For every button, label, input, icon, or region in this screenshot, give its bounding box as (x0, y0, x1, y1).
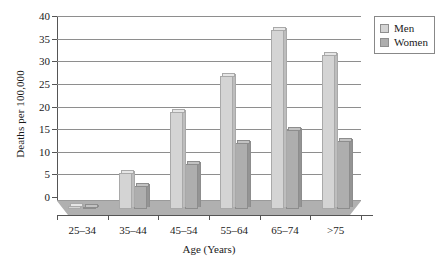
bar-face (83, 207, 96, 209)
x-axis-tick-label: 45–54 (170, 224, 198, 236)
x-axis-tick-label: 35–44 (119, 224, 147, 236)
bar-women-35–44 (134, 186, 147, 209)
bar-face (337, 141, 350, 209)
bar-side (233, 74, 236, 207)
y-axis-tick-label: 15 (39, 123, 50, 135)
x-axis-tick (158, 215, 159, 220)
legend-item-women: Women (380, 35, 428, 49)
bar-face (235, 143, 248, 209)
x-axis-line (57, 215, 373, 216)
bar-men-35–44 (119, 173, 132, 209)
y-axis-tick-label: 0 (45, 191, 51, 203)
bar-men-45–54 (170, 112, 183, 209)
y-axis-tick-label: 10 (39, 146, 50, 158)
x-axis-tick (361, 215, 362, 220)
x-axis-tick (108, 215, 109, 220)
bar-women->75 (337, 141, 350, 209)
bar-side (284, 28, 287, 207)
x-axis-tick (209, 215, 210, 220)
bar-face (68, 206, 81, 209)
y-axis-tick-label: 30 (39, 55, 50, 67)
y-axis-tick-label: 25 (39, 78, 50, 90)
bar-women-55–64 (235, 143, 248, 209)
bar-women-25–34 (83, 207, 96, 209)
legend-swatch-women-icon (380, 38, 389, 47)
bar-face (185, 164, 198, 209)
bar-women-65–74 (286, 130, 299, 209)
bar-face (322, 55, 335, 209)
bar-men-65–74 (271, 30, 284, 209)
x-axis-tick-label: 55–64 (221, 224, 249, 236)
bar-men-55–64 (220, 76, 233, 209)
bar-side (299, 128, 302, 207)
y-axis-tick-label: 40 (39, 10, 50, 22)
bar-side (132, 171, 135, 207)
bar-face (220, 76, 233, 209)
x-axis-tick (260, 215, 261, 220)
legend-swatch-men-icon (380, 24, 389, 33)
x-axis-tick-label: >75 (327, 224, 344, 236)
bar-men-25–34 (68, 206, 81, 209)
bar-side (248, 141, 251, 207)
plot-area: 0510152025303540 (57, 16, 361, 215)
y-axis-tick-label: 20 (39, 101, 50, 113)
bar-side (335, 53, 338, 207)
x-axis-tick (57, 215, 58, 220)
bar-side (350, 139, 353, 207)
legend-item-men: Men (380, 21, 428, 35)
legend-label-men: Men (394, 22, 414, 34)
x-axis-tick-label: 25–34 (69, 224, 97, 236)
legend-label-women: Women (394, 36, 428, 48)
y-axis-tick-label: 5 (45, 168, 51, 180)
bar-face (134, 186, 147, 209)
x-axis-title: Age (Years) (57, 243, 361, 255)
y-axis-title: Deaths per 100,000 (14, 24, 26, 204)
bar-side (147, 184, 150, 207)
x-axis-tick-label: 65–74 (271, 224, 299, 236)
x-axis-tick (310, 215, 311, 220)
bar-face (119, 173, 132, 209)
bar-men->75 (322, 55, 335, 209)
bar-women-45–54 (185, 164, 198, 209)
bar-face (271, 30, 284, 209)
bars-layer (57, 16, 361, 215)
bar-face (170, 112, 183, 209)
legend: Men Women (374, 16, 435, 54)
bar-chart: Deaths per 100,000 0510152025303540 25–3… (0, 0, 443, 267)
bar-face (286, 130, 299, 209)
y-axis-tick-label: 35 (39, 33, 50, 45)
bar-side (183, 110, 186, 207)
bar-side (198, 162, 201, 207)
